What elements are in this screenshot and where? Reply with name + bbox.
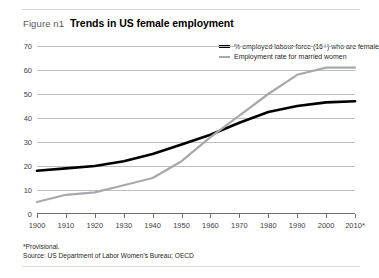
x-axis-tick-label: 1960 (202, 221, 219, 230)
page-title: Trends in US female employment (70, 17, 234, 29)
footnote-block: *Provisional. Source: US Department of L… (23, 243, 194, 260)
x-axis-tick-label: 1940 (144, 221, 161, 230)
x-axis-tick-label: 1970 (231, 221, 248, 230)
chart-plot-area: 010203040506070 190019101920193019401950… (37, 46, 355, 214)
x-axis-tick-label: 1990 (289, 221, 306, 230)
series-line-employed-labour-force (37, 101, 355, 171)
x-axis-tick-label: 1980 (260, 221, 277, 230)
top-divider-rule (22, 9, 360, 10)
x-axis-tick-mark (355, 214, 356, 218)
y-axis-tick-label: 60 (24, 66, 32, 75)
y-axis-tick-label: 0 (28, 210, 32, 219)
figure-header: Figure n1 Trends in US female employment (23, 17, 234, 29)
x-axis-tick-mark (153, 214, 154, 218)
y-axis-tick-label: 40 (24, 114, 32, 123)
footnote-source: Source: US Department of Labor Women's B… (23, 252, 194, 261)
x-axis-tick-label: 1920 (86, 221, 103, 230)
x-axis-tick-label: 2010* (345, 221, 365, 230)
x-axis-tick-mark (182, 214, 183, 218)
x-axis-tick-label: 1900 (29, 221, 46, 230)
y-axis-tick-label: 20 (24, 162, 32, 171)
x-axis-tick-mark (66, 214, 67, 218)
x-axis-tick-label: 1930 (115, 221, 132, 230)
x-axis-tick-mark (210, 214, 211, 218)
x-axis-tick-label: 1910 (58, 221, 75, 230)
x-axis-tick-label: 1950 (173, 221, 190, 230)
x-axis-tick-mark (326, 214, 327, 218)
x-axis-tick-mark (124, 214, 125, 218)
y-axis-tick-label: 50 (24, 90, 32, 99)
x-axis-tick-mark (268, 214, 269, 218)
x-axis-tick-label: 2000 (318, 221, 335, 230)
chart-series-lines (37, 46, 355, 214)
footnote-provisional: *Provisional. (23, 243, 194, 252)
y-axis-tick-label: 70 (24, 42, 32, 51)
y-axis-tick-label: 30 (24, 138, 32, 147)
x-axis-tick-mark (239, 214, 240, 218)
figure-number: Figure n1 (23, 18, 64, 29)
bottom-divider-rule (22, 266, 360, 267)
series-line-married-women-rate (37, 68, 355, 202)
x-axis-tick-mark (297, 214, 298, 218)
y-axis-tick-label: 10 (24, 186, 32, 195)
x-axis-tick-mark (95, 214, 96, 218)
x-axis-tick-mark (37, 214, 38, 218)
